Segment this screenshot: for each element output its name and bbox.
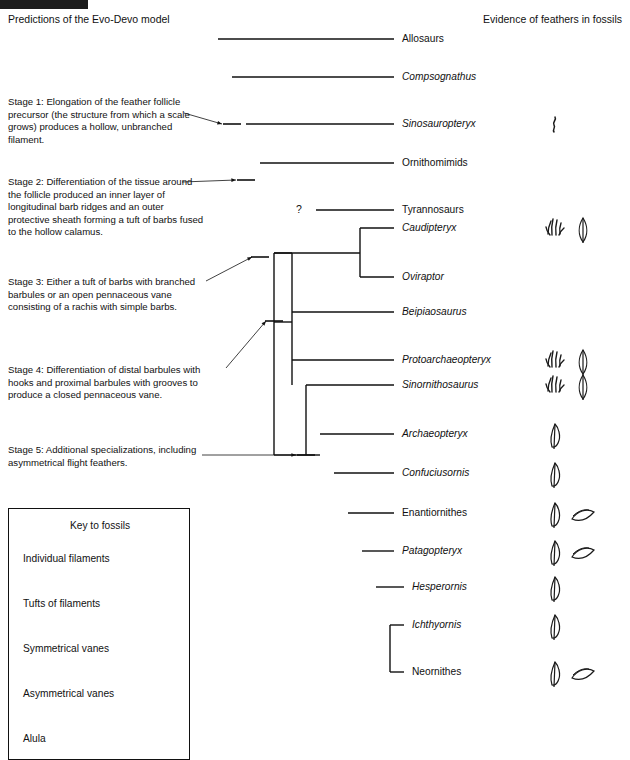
taxon-label: Hesperornis [412,581,467,592]
taxon-label: Sinornithosaurus [402,379,478,390]
fossil-icon-asymmetrical-vanes [551,615,560,640]
fossil-icon-individual-filaments [553,117,555,132]
fossil-icon-asymmetrical-vanes [551,463,560,488]
fossil-icon-alula [572,669,594,680]
stage-3-description: Stage 3: Either a tuft of barbs with bra… [8,276,214,314]
taxon-label: Tyrannosaurs [402,204,464,215]
fossil-icon-asymmetrical-vanes [551,662,560,687]
fossil-icon-tufts-of-filaments [546,376,564,392]
stage-2-description: Stage 2: Differentiation of the tissue a… [8,176,204,239]
key-item-label: Alula [23,733,46,744]
taxon-label: Protoarchaeopteryx [402,354,491,365]
key-item-label: Asymmetrical vanes [23,688,114,699]
fossil-icon-asymmetrical-vanes [551,541,560,566]
key-to-fossils-box: Key to fossils Individual filamentsTufts… [8,508,190,760]
taxon-label: Beipiaosaurus [402,306,467,317]
uncertainty-question-mark: ? [296,203,302,215]
fossil-icon-tufts-of-filaments [546,351,564,367]
fossil-icon-alula [572,510,594,521]
stage-5-description: Stage 5: Additional specializations, inc… [8,444,202,469]
taxon-label: Enantiornithes [402,507,467,518]
taxon-label: Neornithes [412,666,461,677]
taxon-label: Allosaurs [402,33,444,44]
fossil-icon-asymmetrical-vanes [551,577,560,602]
tree-branches [218,39,404,672]
fossil-icon-asymmetrical-vanes [551,503,560,528]
taxon-label: Confuciusornis [402,467,469,478]
stage-tick-marks [223,124,315,455]
taxon-label: Oviraptor [402,271,444,282]
taxon-label: Ornithomimids [402,157,468,168]
taxon-label: Ichthyornis [412,619,461,630]
fossil-icon-alula [572,548,594,559]
taxon-label: Archaeopteryx [402,428,468,439]
key-item-label: Symmetrical vanes [23,643,109,654]
key-item-label: Tufts of filaments [23,598,100,609]
fossil-evidence-icons [546,117,594,687]
taxon-label: Sinosauropteryx [402,118,476,129]
taxon-label: Compsognathus [402,71,476,82]
fossil-icon-symmetrical-vanes [579,350,587,375]
key-title: Key to fossils [9,520,191,531]
stage-4-description: Stage 4: Differentiation of distal barbu… [8,364,226,402]
fossil-icon-symmetrical-vanes [579,218,587,243]
key-item-label: Individual filaments [23,553,110,564]
taxon-label: Caudipteryx [402,222,456,233]
taxon-label: Patagopteryx [402,545,462,556]
stage-1-description: Stage 1: Elongation of the feather folli… [8,96,192,146]
fossil-icon-asymmetrical-vanes [551,424,560,449]
fossil-icon-tufts-of-filaments [546,219,564,235]
fossil-icon-symmetrical-vanes [579,375,587,400]
